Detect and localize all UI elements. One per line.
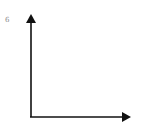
y-axis-arrowhead-icon <box>26 14 36 23</box>
y-axis-label: 6 <box>5 17 9 24</box>
x-axis <box>30 112 131 122</box>
y-axis <box>26 14 36 117</box>
x-axis-arrowhead-icon <box>122 112 131 122</box>
axes-svg <box>0 0 145 135</box>
